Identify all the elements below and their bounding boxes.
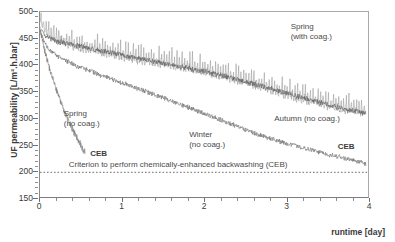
x-minor-tick [155,198,156,201]
y-minor-tick [35,102,38,103]
x-minor-tick [56,198,57,201]
y-tick-mark [33,38,38,39]
y-minor-tick [35,113,38,114]
y-tick-mark [33,171,38,172]
y-minor-tick [35,187,38,188]
x-minor-tick [336,198,337,201]
y-minor-tick [35,166,38,167]
y-minor-tick [35,182,38,183]
y-tick-mark [33,145,38,146]
annotation-line: (no coag.) [64,119,100,129]
y-minor-tick [35,107,38,108]
x-minor-tick [221,198,222,201]
y-minor-tick [35,134,38,135]
x-minor-tick [254,198,255,201]
x-minor-tick [270,198,271,201]
x-minor-tick [72,198,73,201]
x-tick-mark [39,198,40,202]
x-tick-mark [369,198,370,202]
y-minor-tick [35,59,38,60]
annotation-line: CEB [90,149,107,158]
y-tick-mark [33,11,38,12]
annotation-winter-no-coag: Winter(no coag.) [189,130,225,150]
y-minor-tick [35,75,38,76]
y-minor-tick [35,27,38,28]
y-minor-tick [35,193,38,194]
y-minor-tick [35,54,38,55]
x-minor-tick [303,198,304,201]
y-minor-tick [35,16,38,17]
y-minor-tick [35,86,38,87]
x-tick-label: 0 [24,201,54,211]
y-minor-tick [35,70,38,71]
x-minor-tick [171,198,172,201]
annotation-line: (no coag.) [189,140,225,150]
figure-canvas: UF permeability [L/m².h.bar] runtime [da… [0,0,395,242]
y-minor-tick [35,150,38,151]
y-tick-mark [33,198,38,199]
x-tick-mark [287,198,288,202]
x-minor-tick [353,198,354,201]
y-minor-tick [35,43,38,44]
annotation-ceb-right: CEB [338,142,355,151]
y-minor-tick [35,48,38,49]
series-line [40,30,366,116]
y-tick-label: 300 [0,113,33,123]
y-tick-label: 400 [0,59,33,69]
x-axis-label: runtime [day] [255,227,385,237]
annotation-line: Autumn (no coag.) [274,114,340,124]
annotation-line: CEB [338,142,355,151]
y-minor-tick [35,123,38,124]
x-minor-tick [320,198,321,201]
annotation-spring-with-coag: Spring(with coag.) [291,22,332,42]
x-minor-tick [188,198,189,201]
annotation-ceb-left: CEB [90,149,107,158]
y-minor-tick [35,129,38,130]
x-tick-label: 1 [107,201,137,211]
y-tick-label: 350 [0,86,33,96]
x-tick-label: 3 [272,201,302,211]
x-minor-tick [237,198,238,201]
annotation-line: Spring [291,22,332,32]
y-tick-mark [33,64,38,65]
x-tick-mark [122,198,123,202]
y-tick-label: 200 [0,166,33,176]
annotation-autumn-no-coag: Autumn (no coag.) [274,114,340,124]
y-minor-tick [35,155,38,156]
x-minor-tick [138,198,139,201]
annotation-line: (with coag.) [291,32,332,42]
y-minor-tick [35,22,38,23]
x-minor-tick [105,198,106,201]
y-minor-tick [35,161,38,162]
y-minor-tick [35,139,38,140]
y-minor-tick [35,80,38,81]
y-tick-mark [33,118,38,119]
y-minor-tick [35,32,38,33]
y-tick-label: 500 [0,6,33,16]
annotation-line: Winter [189,130,225,140]
x-tick-label: 2 [189,201,219,211]
ceb-threshold-label: Criterion to perform chemically-enhanced… [69,160,288,169]
y-minor-tick [35,177,38,178]
x-tick-label: 4 [354,201,384,211]
annotation-line: Spring [64,109,100,119]
y-minor-tick [35,96,38,97]
x-minor-tick [89,198,90,201]
annotation-spring-no-coag: Spring(no coag.) [64,109,100,129]
x-tick-mark [204,198,205,202]
y-tick-label: 250 [0,140,33,150]
y-tick-mark [33,91,38,92]
y-tick-label: 450 [0,33,33,43]
